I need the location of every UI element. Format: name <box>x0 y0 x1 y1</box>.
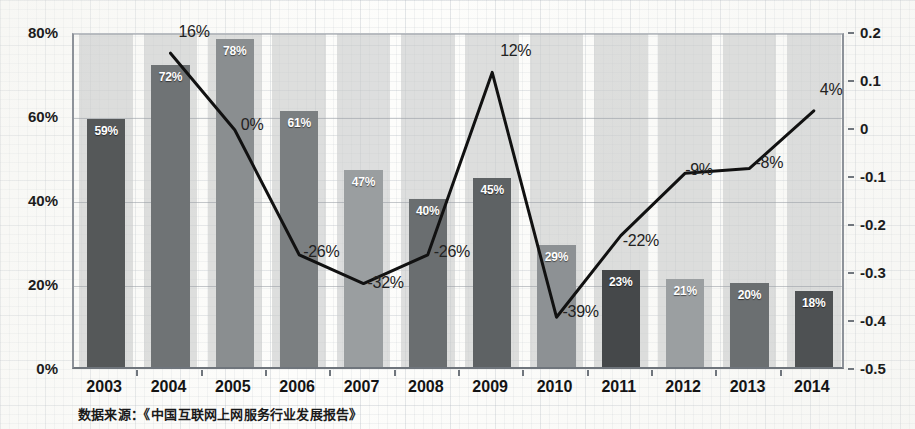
category-tick <box>587 370 589 376</box>
right-axis-tick-label: 0.1 <box>860 72 881 89</box>
category-tick <box>136 370 138 376</box>
category-tick <box>522 370 524 376</box>
left-axis-tick-label: 80% <box>0 24 58 41</box>
right-axis-tick <box>848 176 854 178</box>
line-series <box>74 34 844 369</box>
right-axis-tick-label: -0.5 <box>860 360 886 377</box>
line-value-label: -8% <box>756 154 784 172</box>
line-value-label: -32% <box>368 274 404 292</box>
category-tick <box>458 370 460 376</box>
right-axis-tick <box>848 368 854 370</box>
category-label: 2010 <box>522 378 586 396</box>
line-value-label: -39% <box>563 303 599 321</box>
line-value-label: 4% <box>820 81 843 99</box>
left-axis-tick-label: 0% <box>0 360 58 377</box>
plot-area: 59%72%78%61%47%40%45%29%23%21%20%18% <box>72 33 844 369</box>
line-value-label: 12% <box>500 42 531 60</box>
category-tick <box>265 370 267 376</box>
line-value-label: 0% <box>241 116 264 134</box>
source-note: 数据来源：《中国互联网上网服务行业发展报告》 <box>78 404 362 423</box>
line-value-label: -22% <box>623 232 659 250</box>
line-path <box>171 53 814 317</box>
category-label: 2005 <box>201 378 265 396</box>
category-label: 2004 <box>136 378 200 396</box>
category-label: 2012 <box>651 378 715 396</box>
right-axis-tick <box>848 272 854 274</box>
line-value-label: 16% <box>179 23 210 41</box>
category-label: 2009 <box>458 378 522 396</box>
left-axis-tick-label: 60% <box>0 108 58 125</box>
right-axis-tick <box>848 128 854 130</box>
category-label: 2008 <box>394 378 458 396</box>
category-label: 2003 <box>72 378 136 396</box>
right-axis-tick-label: -0.3 <box>860 264 886 281</box>
right-axis-tick-label: 0 <box>860 120 868 137</box>
category-tick <box>780 370 782 376</box>
category-tick <box>715 370 717 376</box>
right-axis-tick <box>848 32 854 34</box>
category-label: 2011 <box>587 378 651 396</box>
right-axis-tick-label: -0.1 <box>860 168 886 185</box>
category-label: 2006 <box>265 378 329 396</box>
line-value-label: -26% <box>434 243 470 261</box>
category-tick <box>394 370 396 376</box>
category-label: 2013 <box>715 378 779 396</box>
line-value-label: -9% <box>685 161 713 179</box>
right-axis-tick <box>848 320 854 322</box>
right-axis-tick-label: -0.2 <box>860 216 886 233</box>
category-tick <box>651 370 653 376</box>
category-label: 2014 <box>780 378 844 396</box>
chart-page: 80%60%40%20%0% 0.20.10-0.1-0.2-0.3-0.4-0… <box>0 0 915 429</box>
line-value-label: -26% <box>303 243 339 261</box>
left-axis-tick-label: 40% <box>0 192 58 209</box>
right-axis-tick-label: -0.4 <box>860 312 886 329</box>
right-axis-tick <box>848 224 854 226</box>
category-tick <box>329 370 331 376</box>
right-axis-tick <box>848 80 854 82</box>
category-label: 2007 <box>329 378 393 396</box>
right-axis-tick-label: 0.2 <box>860 24 881 41</box>
left-axis-tick-label: 20% <box>0 276 58 293</box>
category-tick <box>201 370 203 376</box>
